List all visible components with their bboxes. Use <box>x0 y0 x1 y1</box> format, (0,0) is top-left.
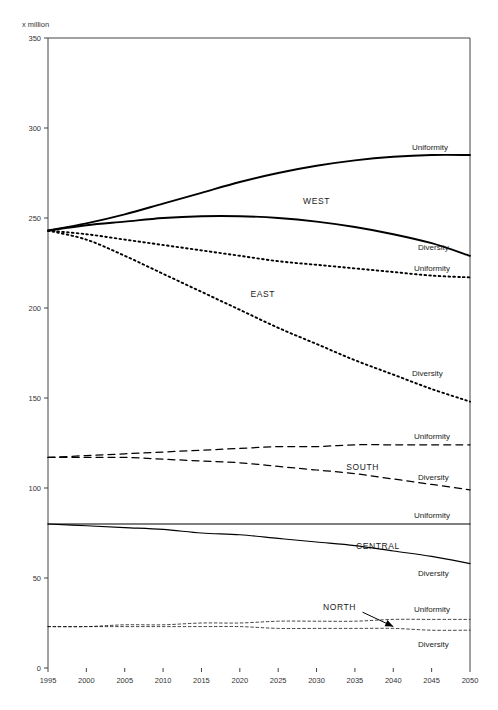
axis-frame <box>48 38 470 668</box>
series-line-north-diversity <box>48 626 470 630</box>
x-tick-label: 2045 <box>423 676 440 685</box>
chart-container: x million 050100150200250300350 19952000… <box>0 0 498 710</box>
series-label-south-diversity: Diversity <box>418 473 449 482</box>
y-tick-label: 200 <box>28 304 41 313</box>
series-label-north-diversity: Diversity <box>418 640 449 649</box>
region-label-central: CENTRAL <box>356 541 400 551</box>
series-line-east-diversity <box>48 231 470 402</box>
series-label-east-diversity: Diversity <box>412 369 443 378</box>
series-label-west-diversity: Diversity <box>418 243 449 252</box>
region-labels: WESTEASTSOUTHCENTRALNORTH <box>251 196 400 613</box>
series-line-central-diversity <box>48 524 470 564</box>
x-tick-label: 2050 <box>462 676 479 685</box>
series-line-south-uniformity <box>48 445 470 458</box>
x-tick-label: 2015 <box>193 676 210 685</box>
y-tick-label: 350 <box>28 34 41 43</box>
series-label-east-uniformity: Uniformity <box>414 264 450 273</box>
x-tick-label: 2020 <box>231 676 248 685</box>
y-axis-title: x million <box>22 20 49 29</box>
series-label-south-uniformity: Uniformity <box>414 432 450 441</box>
y-tick-label: 0 <box>37 664 41 673</box>
y-tick-label: 50 <box>33 574 41 583</box>
y-tick-label: 150 <box>28 394 41 403</box>
population-projection-chart: x million 050100150200250300350 19952000… <box>0 0 498 710</box>
y-tick-label: 250 <box>28 214 41 223</box>
x-tick-label: 2030 <box>308 676 325 685</box>
series-line-west-uniformity <box>48 155 470 231</box>
series-label-west-uniformity: Uniformity <box>412 143 448 152</box>
y-tick-label: 100 <box>28 484 41 493</box>
region-label-east: EAST <box>251 289 276 299</box>
x-axis-ticks: 1995200020052010201520202025203020352040… <box>40 668 479 685</box>
series-label-north-uniformity: Uniformity <box>414 605 450 614</box>
x-tick-label: 2000 <box>78 676 95 685</box>
region-label-north: NORTH <box>323 602 356 612</box>
series-line-south-diversity <box>48 457 470 490</box>
x-tick-label: 2025 <box>270 676 287 685</box>
y-tick-label: 300 <box>28 124 41 133</box>
x-tick-label: 2040 <box>385 676 402 685</box>
series-line-north-uniformity <box>48 619 470 626</box>
x-tick-label: 2010 <box>155 676 172 685</box>
series-label-central-diversity: Diversity <box>418 569 449 578</box>
region-label-south: SOUTH <box>346 462 379 472</box>
series-label-central-uniformity: Uniformity <box>414 511 450 520</box>
series-lines <box>48 155 470 630</box>
region-label-west: WEST <box>303 196 330 206</box>
series-labels: UniformityDiversityUniformityDiversityUn… <box>412 143 450 649</box>
x-tick-label: 1995 <box>40 676 57 685</box>
x-tick-label: 2035 <box>347 676 364 685</box>
x-tick-label: 2005 <box>116 676 133 685</box>
y-axis-ticks: 050100150200250300350 <box>28 34 48 673</box>
